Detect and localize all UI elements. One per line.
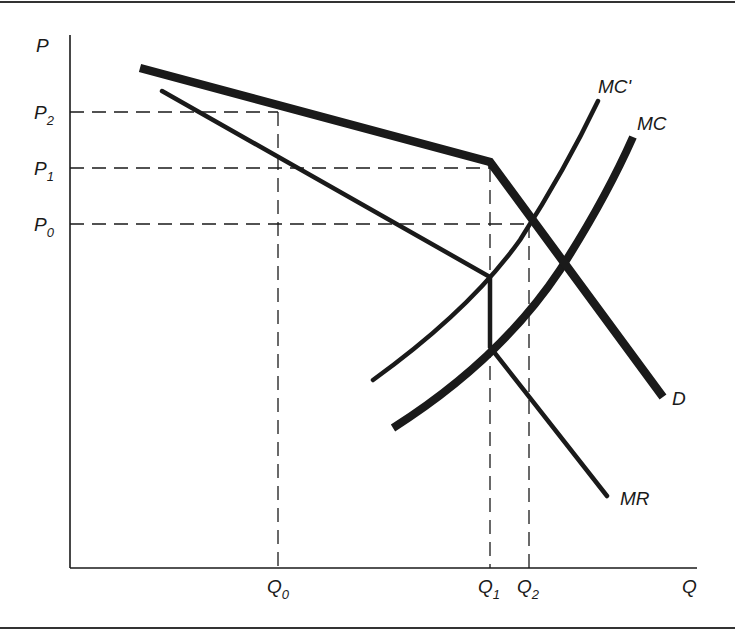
mc-label: MC (637, 113, 667, 134)
mr-label: MR (620, 488, 650, 509)
y-axis-label: P (36, 35, 49, 56)
kinked-demand-chart: P Q P2 P1 P0 Q0 Q1 Q2 MC' MC D MR (0, 0, 735, 631)
mc-prime-label: MC' (598, 76, 633, 97)
p1-label: P1 (34, 158, 54, 184)
demand-label: D (672, 388, 686, 409)
mc-curve (393, 137, 633, 428)
q2-label: Q2 (517, 576, 540, 602)
x-axis-label: Q (682, 576, 697, 597)
q0-label: Q0 (267, 576, 290, 602)
p0-label: P0 (34, 214, 55, 240)
p2-label: P2 (34, 102, 55, 128)
guide-lines (70, 112, 530, 568)
q1-label: Q1 (478, 576, 500, 602)
